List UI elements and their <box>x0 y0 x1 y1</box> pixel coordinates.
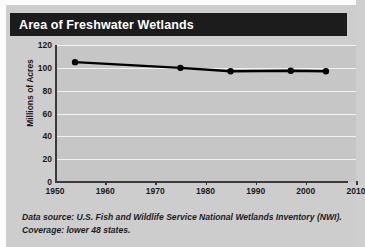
page-title: Area of Freshwater Wetlands <box>10 18 194 32</box>
x-tick-label: 1990 <box>246 186 265 196</box>
page-margin-left <box>0 0 6 247</box>
chart-footnote: Data source: U.S. Fish and Wildlife Serv… <box>22 211 342 236</box>
data-series-line <box>55 45 356 182</box>
x-tick-mark <box>356 181 358 185</box>
x-tick-label: 1950 <box>46 186 65 196</box>
footnote-line-1: Data source: U.S. Fish and Wildlife Serv… <box>22 212 315 222</box>
x-tick-label: 1980 <box>196 186 215 196</box>
data-point-marker <box>323 68 329 74</box>
y-tick-label: 100 <box>12 63 52 73</box>
y-tick-label: 60 <box>12 109 52 119</box>
data-point-marker <box>177 65 183 71</box>
x-tick-label: 1970 <box>146 186 165 196</box>
chart-container: Millions of Acres 020406080100120 195019… <box>10 40 356 205</box>
x-tick-label: 2000 <box>296 186 315 196</box>
data-point-marker <box>288 67 294 73</box>
chart-title-banner: Area of Freshwater Wetlands <box>10 13 347 36</box>
x-tick-label: 2010 <box>347 186 365 196</box>
y-axis-ticks: 020406080100120 <box>10 45 52 182</box>
x-tick-label: 1960 <box>96 186 115 196</box>
y-tick-label: 120 <box>12 40 52 50</box>
y-tick-label: 40 <box>12 131 52 141</box>
data-point-marker <box>72 59 78 65</box>
y-tick-label: 20 <box>12 154 52 164</box>
data-point-marker <box>227 68 233 74</box>
page-margin-top <box>0 0 356 5</box>
y-tick-label: 80 <box>12 86 52 96</box>
